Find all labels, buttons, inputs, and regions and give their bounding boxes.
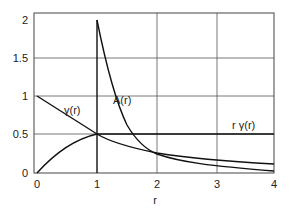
x-tick: 4	[271, 178, 277, 190]
label-gamma: γ(r)	[64, 104, 81, 116]
plot-frame	[34, 13, 274, 173]
label-r-gamma: r γ(r)	[232, 119, 255, 131]
x-tick: 3	[214, 178, 220, 190]
y-tick-labels: 2 1.5 1 0.5 0	[13, 14, 28, 179]
y-tick: 1.5	[13, 52, 28, 64]
x-tick: 0	[34, 178, 40, 190]
x-tick: 2	[154, 178, 160, 190]
y-tick: 2	[22, 14, 28, 26]
x-axis-label: r	[153, 194, 157, 206]
grid	[34, 13, 274, 173]
y-tick: 0	[22, 167, 28, 179]
x-tick: 1	[94, 178, 100, 190]
y-tick: 1	[22, 90, 28, 102]
chart: 2 1.5 1 0.5 0 0 1 2 3 4 r A(r) γ(r) r γ(…	[0, 0, 294, 210]
y-tick: 0.5	[13, 128, 28, 140]
label-A: A(r)	[113, 94, 131, 106]
x-tick-labels: 0 1 2 3 4	[34, 178, 277, 190]
